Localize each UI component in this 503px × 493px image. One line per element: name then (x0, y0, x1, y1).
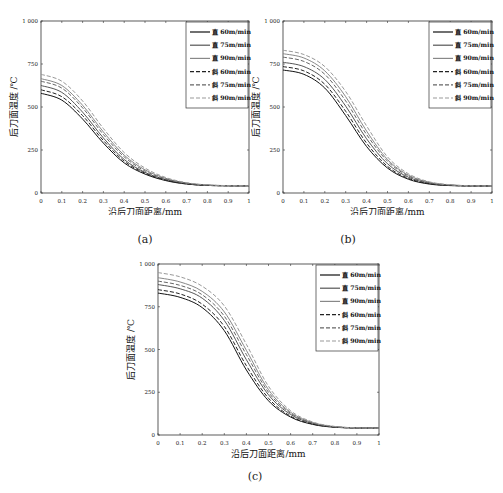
legend-entry: 直 60m/min (342, 271, 381, 279)
x-tick-label: 0.1 (300, 198, 309, 204)
x-tick-label: 0.6 (161, 198, 170, 204)
y-tick-label: 500 (145, 347, 156, 353)
y-tick-label: 250 (28, 147, 39, 153)
x-tick-label: 0.6 (404, 198, 413, 204)
x-tick-label: 0.7 (425, 198, 434, 204)
legend-entry: 直 75m/min (342, 284, 381, 292)
chart-b: 00.10.20.30.40.50.60.70.80.9102505007501… (251, 0, 503, 215)
legend-entry: 斜 60m/min (211, 68, 251, 76)
x-tick-label: 0.9 (353, 440, 362, 446)
caption-c: (c) (225, 470, 285, 483)
legend-entry: 斜 60m/min (454, 68, 494, 76)
y-tick-label: 500 (270, 104, 281, 110)
legend-entry: 斜 90m/min (341, 337, 381, 345)
chart-b-plot: 00.10.20.30.40.50.60.70.80.9102505007501… (251, 0, 503, 215)
y-tick-label: 0 (152, 432, 156, 438)
chart-a: 00.10.20.30.40.50.60.70.80.9102505007501… (0, 0, 252, 215)
y-tick-label: 0 (277, 190, 281, 196)
x-axis-label: 沿后刀面距离/mm (231, 448, 306, 458)
y-tick-label: 1 000 (22, 18, 38, 24)
x-tick-label: 0.8 (330, 440, 339, 446)
y-tick-label: 250 (270, 147, 281, 153)
x-tick-label: 0.3 (341, 198, 350, 204)
y-axis-label: 后刀面温度 /℃ (8, 77, 19, 138)
x-tick-label: 0.5 (264, 440, 273, 446)
x-tick-label: 0.4 (120, 198, 129, 204)
y-tick-label: 1 000 (264, 18, 280, 24)
x-tick-label: 0.9 (224, 198, 233, 204)
y-tick-label: 0 (35, 190, 39, 196)
chart-c-plot: 00.10.20.30.40.50.60.70.80.9102505007501… (117, 243, 382, 458)
x-tick-label: 0.3 (220, 440, 229, 446)
legend-entry: 直 90m/min (212, 54, 251, 62)
legend-entry: 斜 90m/min (211, 94, 251, 102)
x-tick-label: 0.9 (467, 198, 476, 204)
x-tick-label: 0.7 (182, 198, 191, 204)
legend-entry: 直 90m/min (342, 297, 381, 305)
x-tick-label: 0.5 (383, 198, 392, 204)
x-tick-label: 0.2 (320, 198, 329, 204)
y-tick-label: 750 (145, 304, 156, 310)
legend-entry: 斜 60m/min (341, 311, 381, 319)
x-tick-label: 0.4 (362, 198, 371, 204)
x-tick-label: 1 (490, 198, 494, 204)
x-tick-label: 0.4 (242, 440, 251, 446)
y-tick-label: 750 (28, 61, 39, 67)
x-tick-label: 0.1 (176, 440, 185, 446)
y-tick-label: 1 000 (139, 261, 155, 267)
legend-entry: 斜 90m/min (454, 94, 494, 102)
y-axis-label: 后刀面温度 /℃ (125, 319, 136, 380)
legend-entry: 直 60m/min (212, 28, 251, 36)
y-tick-label: 500 (28, 104, 39, 110)
legend-entry: 直 60m/min (455, 28, 494, 36)
y-axis-label: 后刀面温度 /℃ (251, 77, 261, 138)
x-axis-label: 沿后刀面距离/mm (108, 206, 183, 215)
legend-entry: 斜 75m/min (211, 81, 251, 89)
legend-entry: 斜 75m/min (454, 81, 494, 89)
legend-entry: 斜 75m/min (341, 324, 381, 332)
x-tick-label: 1 (377, 440, 381, 446)
x-tick-label: 0.2 (78, 198, 87, 204)
legend-entry: 直 75m/min (212, 41, 251, 49)
x-tick-label: 0.3 (99, 198, 108, 204)
x-tick-label: 0 (156, 440, 160, 446)
x-tick-label: 0.7 (308, 440, 317, 446)
y-tick-label: 250 (145, 389, 156, 395)
chart-a-plot: 00.10.20.30.40.50.60.70.80.9102505007501… (0, 0, 252, 215)
x-tick-label: 0.8 (446, 198, 455, 204)
x-tick-label: 0.5 (141, 198, 150, 204)
x-tick-label: 0.1 (57, 198, 66, 204)
x-tick-label: 0 (39, 198, 43, 204)
x-axis-label: 沿后刀面距离/mm (350, 206, 425, 215)
legend-entry: 直 90m/min (455, 54, 494, 62)
chart-c: 00.10.20.30.40.50.60.70.80.9102505007501… (117, 243, 382, 458)
x-tick-label: 0.2 (198, 440, 207, 446)
x-tick-label: 0.6 (286, 440, 295, 446)
legend-entry: 直 75m/min (455, 41, 494, 49)
y-tick-label: 750 (270, 61, 281, 67)
x-tick-label: 0.8 (203, 198, 212, 204)
x-tick-label: 0 (281, 198, 285, 204)
